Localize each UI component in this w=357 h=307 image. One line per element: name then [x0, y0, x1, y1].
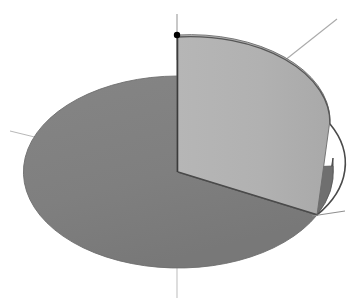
- pie-chart-figure: [0, 0, 357, 307]
- apex-vertex-dot-icon[interactable]: [174, 32, 180, 38]
- pie-chart-canvas: [0, 0, 357, 307]
